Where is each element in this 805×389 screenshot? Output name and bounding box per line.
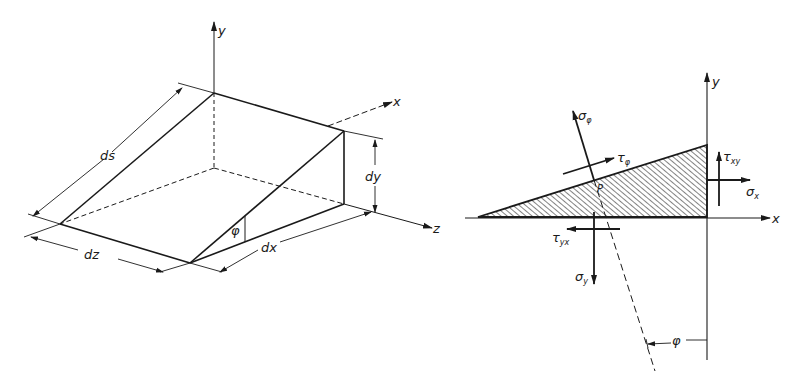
edge-top xyxy=(214,93,344,131)
axis-z-3d xyxy=(344,204,432,228)
dx-dimension-line-b xyxy=(220,250,258,272)
edge-ds-left xyxy=(60,93,214,224)
diagram-svg: y x z ds dz dx dy φ y x xyxy=(0,0,805,389)
dz-dimension-line-a xyxy=(31,237,78,250)
label-dx: dx xyxy=(261,240,277,255)
label-tau-yx: τyx xyxy=(552,230,570,247)
label-ds: ds xyxy=(100,148,115,163)
label-axis-y-2d: y xyxy=(711,74,720,89)
left-figure xyxy=(24,22,432,272)
label-sigma-phi: σφ xyxy=(578,108,592,125)
label-sigma-y: σy xyxy=(575,269,588,286)
label-axis-y-3d: y xyxy=(217,23,226,38)
label-angle-3d: φ xyxy=(231,223,240,238)
ds-extension xyxy=(178,83,214,93)
label-axis-x-3d: x xyxy=(392,94,401,109)
dz-extension-bottom xyxy=(160,263,190,272)
ds-extension-bottom xyxy=(28,214,60,224)
label-point-p: P xyxy=(597,183,604,194)
label-angle-2d: φ xyxy=(672,333,681,348)
ds-dimension-line-a xyxy=(112,88,182,152)
ds-dimension-line-b xyxy=(33,159,104,216)
right-figure xyxy=(465,73,770,371)
left-figure-labels: y x z ds dz dx dy φ xyxy=(84,23,441,262)
stress-element-triangle xyxy=(478,145,707,217)
diagram-canvas: y x z ds dz dx dy φ y x xyxy=(0,0,805,389)
label-dz: dz xyxy=(84,247,100,262)
label-tau-phi: τφ xyxy=(617,150,631,167)
label-axis-x-2d: x xyxy=(771,211,780,226)
label-axis-z-3d: z xyxy=(432,221,441,236)
label-dy: dy xyxy=(365,169,381,184)
edge-front-bottom xyxy=(60,224,190,263)
label-sigma-x: σx xyxy=(746,184,759,201)
hidden-edge-left xyxy=(60,168,214,224)
axis-x-3d xyxy=(328,102,392,126)
dz-extension xyxy=(24,224,60,237)
dx-extension xyxy=(190,263,222,272)
dy-extension xyxy=(344,131,383,139)
dz-dimension-line-b xyxy=(118,259,163,272)
phi-dimension-line-a xyxy=(648,343,671,344)
label-tau-xy: τxy xyxy=(723,149,741,166)
dx-dimension-line-a xyxy=(280,212,371,242)
